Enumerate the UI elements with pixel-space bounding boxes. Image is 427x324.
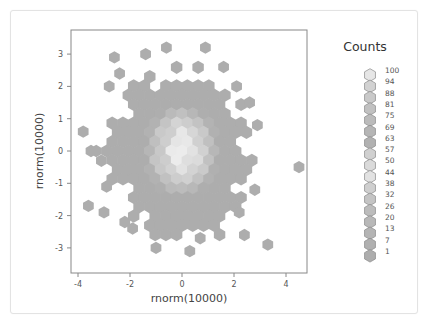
legend-swatch bbox=[365, 125, 376, 138]
legend-label: 75 bbox=[385, 111, 395, 120]
legend-label: 57 bbox=[385, 145, 395, 154]
legend-label: 81 bbox=[385, 100, 395, 109]
legend-swatch bbox=[365, 182, 376, 195]
legend-label: 38 bbox=[385, 179, 395, 188]
hex-cell-outlier bbox=[114, 67, 125, 79]
legend-swatch bbox=[365, 114, 376, 127]
y-axis: -3-2-10123 bbox=[55, 50, 71, 253]
legend-label: 100 bbox=[385, 66, 400, 75]
y-tick-label: 0 bbox=[58, 147, 63, 156]
hex-cell-outlier bbox=[249, 184, 260, 196]
legend-title: Counts bbox=[343, 39, 387, 54]
hex-cell-outlier bbox=[83, 200, 94, 212]
legend-swatch bbox=[365, 238, 376, 251]
legend-swatch bbox=[365, 216, 376, 229]
x-axis: -4-2024 bbox=[74, 273, 289, 289]
legend-swatch bbox=[365, 250, 376, 263]
legend-label: 7 bbox=[385, 236, 390, 245]
legend-swatch bbox=[365, 170, 376, 183]
hex-cell-outlier bbox=[78, 125, 89, 137]
legend-swatch bbox=[365, 69, 376, 82]
y-tick-label: 2 bbox=[58, 82, 63, 91]
y-tick-label: -1 bbox=[55, 179, 63, 188]
hex-cell-outlier bbox=[195, 232, 206, 244]
legend-swatch bbox=[365, 137, 376, 150]
legend-label: 88 bbox=[385, 89, 395, 98]
legend-label: 26 bbox=[385, 202, 395, 211]
hex-cell-outlier bbox=[294, 161, 305, 173]
hex-cell-outlier bbox=[252, 119, 263, 131]
legend-swatch bbox=[365, 103, 376, 116]
hex-cell bbox=[171, 61, 182, 74]
hex-cell-outlier bbox=[99, 206, 110, 218]
hex-cell-outlier bbox=[109, 51, 120, 63]
hexbin-chart: -4-2024 -3-2-10123 rnorm(10000) rnorm(10… bbox=[0, 0, 427, 324]
legend-label: 13 bbox=[385, 224, 395, 233]
hex-cell-outlier bbox=[218, 61, 229, 73]
hex-cell-outlier bbox=[239, 229, 250, 241]
y-tick-label: 1 bbox=[58, 115, 63, 124]
legend: 100948881756963575044383226201371 bbox=[365, 66, 400, 262]
x-tick-label: 2 bbox=[231, 280, 236, 289]
legend-swatch bbox=[365, 204, 376, 217]
legend-swatch bbox=[365, 80, 376, 93]
legend-label: 32 bbox=[385, 190, 395, 199]
x-tick-label: 4 bbox=[283, 280, 288, 289]
hex-cell bbox=[192, 61, 203, 74]
legend-swatch bbox=[365, 91, 376, 104]
hex-cell-outlier bbox=[184, 245, 195, 257]
x-tick-label: -4 bbox=[74, 280, 82, 289]
hex-cell-outlier bbox=[140, 48, 151, 60]
legend-swatch bbox=[365, 227, 376, 240]
legend-label: 50 bbox=[385, 156, 395, 165]
hex-cell-outlier bbox=[200, 41, 211, 53]
legend-label: 63 bbox=[385, 134, 395, 143]
hex-cell-outlier bbox=[161, 41, 172, 53]
hexbin-cells bbox=[78, 41, 305, 257]
y-axis-title: rnorm(10000) bbox=[33, 113, 46, 190]
y-tick-label: 3 bbox=[58, 50, 63, 59]
hex-cell-outlier bbox=[231, 80, 242, 92]
legend-label: 69 bbox=[385, 123, 395, 132]
legend-label: 1 bbox=[385, 247, 390, 256]
y-tick-label: -2 bbox=[55, 212, 63, 221]
legend-swatch bbox=[365, 148, 376, 161]
legend-swatch bbox=[365, 159, 376, 172]
hex-cell-outlier bbox=[151, 242, 162, 254]
hex-cell-outlier bbox=[262, 238, 273, 250]
x-axis-title: rnorm(10000) bbox=[151, 292, 228, 305]
legend-label: 20 bbox=[385, 213, 395, 222]
hex-cell-outlier bbox=[104, 80, 115, 92]
legend-label: 94 bbox=[385, 77, 395, 86]
legend-label: 44 bbox=[385, 168, 395, 177]
x-tick-label: -2 bbox=[126, 280, 134, 289]
legend-swatch bbox=[365, 193, 376, 206]
x-tick-label: 0 bbox=[179, 280, 184, 289]
y-tick-label: -3 bbox=[55, 244, 63, 253]
